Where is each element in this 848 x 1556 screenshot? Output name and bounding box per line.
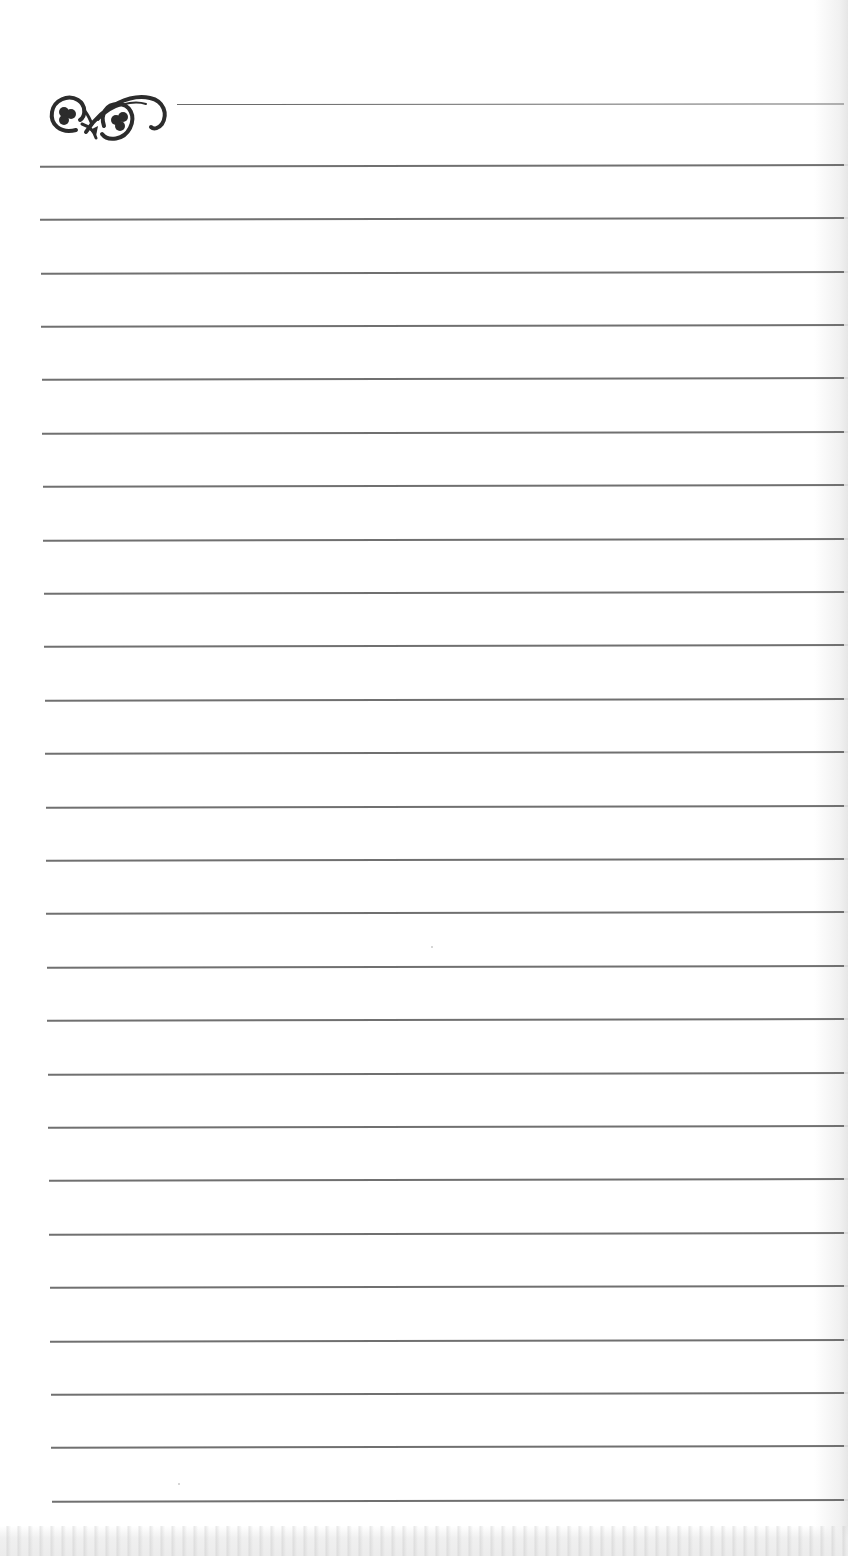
paper-speck xyxy=(178,1483,180,1485)
ruled-lines xyxy=(0,0,848,1556)
ruled-line xyxy=(43,484,844,488)
bottom-bleed-through-texture xyxy=(0,1526,848,1556)
ruled-line xyxy=(51,1445,844,1449)
notebook-page xyxy=(0,0,848,1556)
ruled-line xyxy=(51,1392,844,1396)
ruled-line xyxy=(42,377,844,381)
ruled-line xyxy=(50,1285,844,1289)
ruled-line xyxy=(40,164,844,168)
ruled-line xyxy=(46,858,844,862)
ruled-line xyxy=(52,1499,844,1503)
ruled-line xyxy=(49,1178,844,1182)
ruled-line xyxy=(48,1072,844,1076)
ruled-line xyxy=(44,644,844,648)
ruled-line xyxy=(42,431,844,435)
ruled-line xyxy=(40,217,844,221)
ruled-line xyxy=(46,911,844,915)
paper-speck xyxy=(431,946,433,948)
ruled-line xyxy=(47,965,844,969)
ruled-line xyxy=(41,271,844,275)
ruled-line xyxy=(44,591,844,595)
ruled-line xyxy=(43,538,844,542)
ruled-line xyxy=(48,1125,844,1129)
ruled-line xyxy=(45,751,844,755)
ruled-line xyxy=(47,1018,844,1022)
ruled-line xyxy=(46,805,844,809)
ruled-line xyxy=(50,1339,844,1343)
ruled-line xyxy=(41,324,844,328)
ruled-line xyxy=(45,698,844,702)
ruled-line xyxy=(49,1232,844,1236)
